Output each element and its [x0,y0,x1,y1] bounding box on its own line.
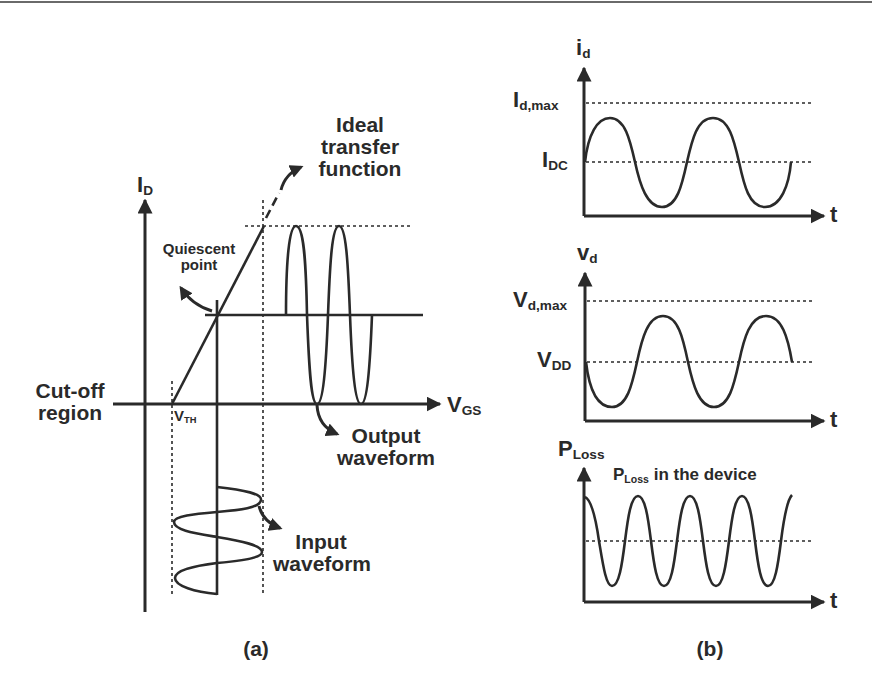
input-waveform-arrow [259,506,280,528]
vgs-axis-label: VGS [447,393,481,419]
idc-label: IDC [542,148,568,174]
quiescent-point-label: Quiescent point [145,241,253,273]
quiescent-arrow [181,288,212,311]
transfer-line-extension [266,193,279,218]
output-waveform-label: Output waveform [337,425,435,469]
cutoff-region-label: Cut-off region [22,380,118,424]
ploss-annotation: PLoss in the device [613,466,757,485]
ideal-transfer-function-label: Ideal transfer function [310,114,410,180]
vd-plot-y-label: vd [577,241,598,267]
panel-b-caption: (b) [690,638,730,660]
vdd-label: VDD [537,348,571,374]
id-plot-y-label: id [576,36,590,62]
id-plot-t-label: t [830,203,837,226]
vd-max-label: Vd,max [513,288,567,314]
plot-drain-voltage [585,273,824,421]
ideal-transfer-arrow [281,167,301,190]
id-max-label: Id,max [513,88,559,114]
panel-a-caption: (a) [236,638,276,660]
figure-canvas [0,0,872,686]
ploss-plot-y-label: PLoss [558,437,605,463]
vth-label: VTH [174,408,196,426]
input-waveform-label: Input waveform [273,531,369,575]
vd-plot-t-label: t [830,408,837,431]
plot-power-loss [584,468,824,602]
ploss-plot-t-label: t [830,589,837,612]
output-waveform-arrow [317,405,337,434]
id-axis-label: ID [137,173,153,199]
plot-drain-current [584,68,824,216]
